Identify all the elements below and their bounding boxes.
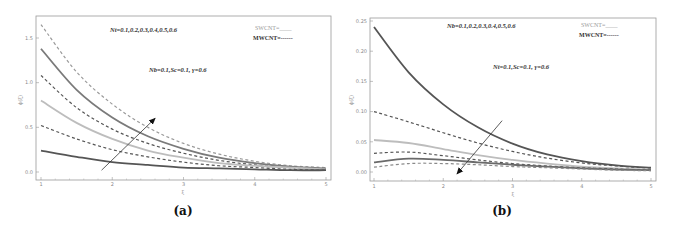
y-tick-label: 1.0 bbox=[25, 79, 33, 85]
y-tick-label: 0.5 bbox=[25, 124, 33, 130]
x-tick-label: 4 bbox=[580, 183, 583, 189]
chart-panel-b: 123450.000.050.100.150.200.25 Nb=0.1,0.2… bbox=[348, 18, 656, 218]
panel-label-a: (a) bbox=[173, 204, 192, 218]
param-list-annotation: Nb=0.1,0.2,0.3,0.4,0.5,0.6 bbox=[446, 22, 516, 29]
figure: 123450.00.51.01.5 Nt=0.1,0.2,0.3,0.4,0.5… bbox=[0, 0, 676, 231]
x-tick-label: 3 bbox=[182, 181, 185, 187]
x-tick-label: 2 bbox=[111, 181, 114, 187]
fixed-params-annotation: Nb=0.1,Sc=0.1, γ=0.6 bbox=[148, 66, 207, 73]
legend-swcnt: SWCNT=____ bbox=[255, 25, 292, 31]
x-tick-label: 3 bbox=[511, 183, 514, 189]
x-tick-label: 1 bbox=[372, 183, 375, 189]
y-tick-label: 0.20 bbox=[356, 48, 367, 54]
chart-panel-a: 123450.00.51.01.5 Nt=0.1,0.2,0.3,0.4,0.5… bbox=[17, 16, 331, 218]
fixed-params-annotation: Nt=0.1,Sc=0.1, γ=0.6 bbox=[492, 63, 550, 70]
x-axis-label: ξ bbox=[182, 189, 185, 196]
y-tick-label: 0.25 bbox=[356, 18, 367, 24]
y-tick-label: 0.00 bbox=[356, 169, 367, 175]
param-list-annotation: Nt=0.1,0.2,0.3,0.4,0.5,0.6 bbox=[109, 26, 178, 33]
legend-mwcnt: MWCNT=------ bbox=[253, 35, 293, 41]
y-tick-label: 1.5 bbox=[25, 35, 33, 41]
x-tick-label: 5 bbox=[324, 181, 327, 187]
x-tick-label: 4 bbox=[253, 181, 256, 187]
x-tick-label: 2 bbox=[442, 183, 445, 189]
legend-swcnt: SWCNT=____ bbox=[581, 22, 618, 28]
y-tick-label: 0.10 bbox=[356, 108, 367, 114]
y-tick-label: 0.15 bbox=[356, 78, 367, 84]
plot-frame bbox=[370, 18, 656, 181]
panel-label-b: (b) bbox=[492, 204, 512, 218]
legend-mwcnt: MWCNT=------ bbox=[579, 32, 619, 38]
y-tick-label: 0.05 bbox=[356, 139, 367, 145]
x-tick-label: 1 bbox=[39, 181, 42, 187]
x-axis-label: ξ bbox=[512, 191, 515, 198]
x-tick-label: 5 bbox=[649, 183, 652, 189]
y-axis-label: ϕ(ξ) bbox=[348, 95, 355, 105]
y-axis-label: ϕ(ξ) bbox=[17, 95, 24, 105]
y-tick-label: 0.0 bbox=[25, 169, 33, 175]
